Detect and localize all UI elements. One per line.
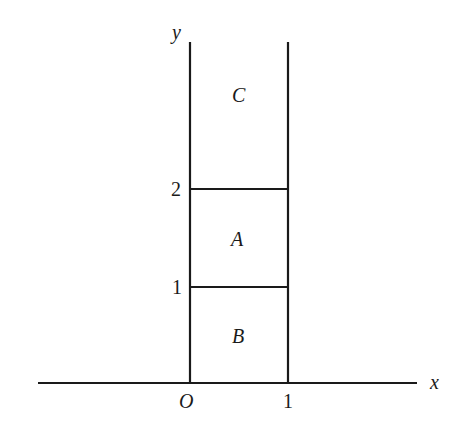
region-c-label: C bbox=[232, 84, 246, 106]
y-tick-1: 1 bbox=[172, 276, 182, 298]
y-tick-2: 2 bbox=[171, 178, 181, 200]
origin-label: O bbox=[179, 390, 193, 412]
y-axis-label: y bbox=[170, 21, 181, 44]
x-tick-1: 1 bbox=[283, 390, 293, 412]
region-b-label: B bbox=[232, 325, 244, 347]
x-axis-label: x bbox=[429, 371, 439, 393]
region-a-label: A bbox=[229, 228, 244, 250]
strip-diagram: y x O 1 1 2 C A B bbox=[0, 0, 465, 437]
